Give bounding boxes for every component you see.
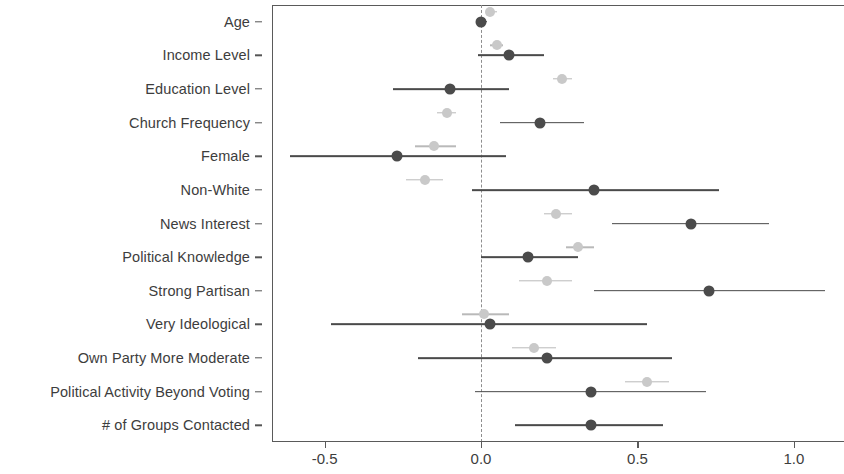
- y-axis-tick: [255, 290, 262, 291]
- point-estimate-marker: [551, 209, 561, 219]
- y-axis-tick: [255, 189, 262, 190]
- y-axis-label: Education Level: [145, 81, 250, 97]
- y-axis-label: Church Frequency: [129, 115, 250, 131]
- y-axis-label: Political Activity Beyond Voting: [50, 384, 250, 400]
- x-axis-tick-label: 0.0: [471, 450, 492, 467]
- y-axis-tick: [255, 88, 262, 89]
- y-axis-tick: [255, 256, 262, 257]
- y-axis-tick: [255, 324, 262, 325]
- y-axis-tick: [255, 122, 262, 123]
- point-estimate-marker: [429, 141, 439, 151]
- point-estimate-marker: [522, 252, 533, 263]
- x-axis-tick-label: 1.0: [783, 450, 804, 467]
- point-estimate-marker: [391, 151, 402, 162]
- point-estimate-marker: [479, 309, 489, 319]
- point-estimate-marker: [685, 218, 696, 229]
- y-axis-label: # of Groups Contacted: [102, 417, 250, 433]
- y-axis-label: Female: [201, 148, 250, 164]
- point-estimate-marker: [573, 242, 583, 252]
- zero-reference-line: [481, 5, 482, 442]
- coefficient-plot-figure: AgeIncome LevelEducation LevelChurch Fre…: [0, 0, 844, 474]
- x-axis-tick-label: -0.5: [312, 450, 338, 467]
- point-estimate-marker: [485, 319, 496, 330]
- point-estimate-marker: [444, 84, 455, 95]
- y-axis-label: Own Party More Moderate: [78, 350, 250, 366]
- x-axis-tick: [325, 441, 326, 448]
- x-axis: -0.50.00.51.0: [272, 441, 844, 474]
- point-estimate-marker: [492, 40, 502, 50]
- x-axis-tick: [481, 441, 482, 448]
- point-estimate-marker: [585, 386, 596, 397]
- y-axis-tick: [255, 21, 262, 22]
- point-estimate-marker: [588, 184, 599, 195]
- point-estimate-marker: [476, 16, 487, 27]
- y-axis-label: Age: [224, 14, 250, 30]
- y-axis-tick: [255, 391, 262, 392]
- x-axis-tick: [637, 441, 638, 448]
- point-estimate-marker: [535, 117, 546, 128]
- point-estimate-marker: [642, 377, 652, 387]
- y-axis-label: Very Ideological: [146, 316, 250, 332]
- point-estimate-marker: [485, 7, 495, 17]
- x-axis-tick: [794, 441, 795, 448]
- y-axis-label: News Interest: [160, 216, 250, 232]
- y-axis-label: Non-White: [181, 182, 250, 198]
- y-axis-label-group: AgeIncome LevelEducation LevelChurch Fre…: [0, 0, 262, 474]
- x-axis-tick-label: 0.5: [627, 450, 648, 467]
- y-axis-tick: [255, 55, 262, 56]
- point-estimate-marker: [529, 343, 539, 353]
- y-axis-tick: [255, 223, 262, 224]
- plot-panel: [272, 5, 844, 442]
- y-axis-label: Strong Partisan: [149, 283, 250, 299]
- point-estimate-marker: [541, 352, 552, 363]
- point-estimate-marker: [504, 50, 515, 61]
- point-estimate-marker: [704, 285, 715, 296]
- point-estimate-marker: [442, 108, 452, 118]
- panel-border-top: [272, 5, 844, 6]
- y-axis-label: Political Knowledge: [122, 249, 250, 265]
- y-axis-tick: [255, 357, 262, 358]
- y-axis-label: Income Level: [163, 47, 250, 63]
- point-estimate-marker: [420, 175, 430, 185]
- point-estimate-marker: [542, 276, 552, 286]
- y-axis-tick: [255, 424, 262, 425]
- y-axis-tick: [255, 156, 262, 157]
- point-estimate-marker: [557, 74, 567, 84]
- panel-border-left: [272, 5, 273, 442]
- point-estimate-marker: [585, 420, 596, 431]
